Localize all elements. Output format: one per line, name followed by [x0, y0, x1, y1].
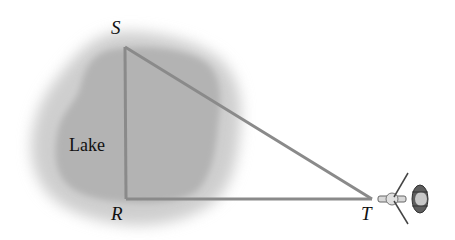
lake-label: Lake: [69, 135, 105, 156]
vertex-label-r: R: [111, 203, 123, 225]
diagram-svg: [0, 0, 455, 240]
helicopter-icon: [378, 173, 428, 224]
diagram-canvas: S R T Lake: [0, 0, 455, 240]
vertex-label-s: S: [111, 17, 121, 39]
vertex-label-t: T: [361, 203, 372, 225]
segment-sr: [125, 47, 126, 199]
